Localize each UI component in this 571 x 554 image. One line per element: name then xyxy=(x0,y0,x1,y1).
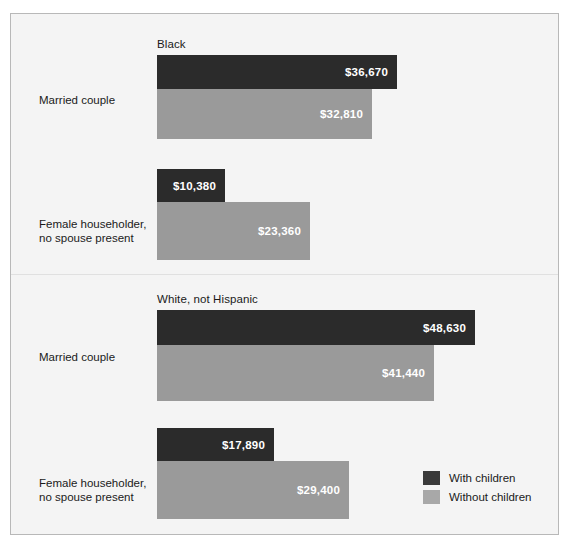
chart-legend: With children Without children xyxy=(423,469,531,507)
bar-white-married-couple-with-children[interactable]: $48,630 xyxy=(157,310,475,345)
bar-value-black-female-householder-with-children: $10,380 xyxy=(173,180,225,192)
group-title-white-not-hispanic: White, not Hispanic xyxy=(157,293,258,305)
legend-swatch-without-children-icon xyxy=(423,490,440,504)
legend-swatch-with-children-icon xyxy=(423,471,440,485)
row-label-white-female-householder: Female householder, no spouse present xyxy=(39,476,169,504)
bar-black-female-householder-without-children[interactable]: $23,360 xyxy=(157,202,310,260)
legend-label-without-children: Without children xyxy=(449,491,531,503)
bar-white-female-householder-with-children[interactable]: $17,890 xyxy=(157,428,274,461)
bar-value-black-married-couple-without-children: $32,810 xyxy=(320,108,372,120)
bar-value-white-married-couple-without-children: $41,440 xyxy=(382,367,434,379)
group-divider xyxy=(11,274,558,275)
row-label-black-married-couple: Married couple xyxy=(39,93,169,107)
bar-value-black-female-householder-without-children: $23,360 xyxy=(258,225,310,237)
row-label-white-married-couple: Married couple xyxy=(39,350,169,364)
group-title-black: Black xyxy=(157,38,186,50)
legend-label-with-children: With children xyxy=(449,472,515,484)
bar-value-black-married-couple-with-children: $36,670 xyxy=(345,66,397,78)
bar-value-white-married-couple-with-children: $48,630 xyxy=(423,322,475,334)
bar-white-married-couple-without-children[interactable]: $41,440 xyxy=(157,345,434,401)
bar-value-white-female-householder-with-children: $17,890 xyxy=(222,439,274,451)
chart-frame: Black Married couple $36,670 $32,810 Fem… xyxy=(10,13,559,535)
legend-item-with-children[interactable]: With children xyxy=(423,469,531,486)
bar-black-married-couple-without-children[interactable]: $32,810 xyxy=(157,89,372,139)
bar-white-female-householder-without-children[interactable]: $29,400 xyxy=(157,461,349,519)
bar-value-white-female-householder-without-children: $29,400 xyxy=(297,484,349,496)
row-label-black-female-householder: Female householder, no spouse present xyxy=(39,217,169,245)
bar-black-married-couple-with-children[interactable]: $36,670 xyxy=(157,55,397,89)
bar-black-female-householder-with-children[interactable]: $10,380 xyxy=(157,169,225,202)
legend-item-without-children[interactable]: Without children xyxy=(423,488,531,505)
